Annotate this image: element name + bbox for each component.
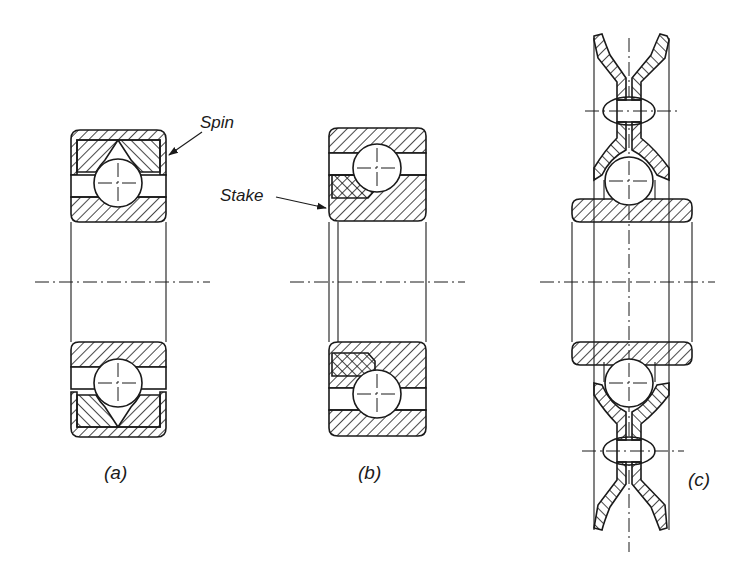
- stake-annotation: Stake: [220, 186, 326, 208]
- bearing-diagram: Spin (a) Stake (b): [0, 0, 745, 570]
- stake-label: Stake: [220, 186, 263, 205]
- caption-a: (a): [104, 462, 127, 483]
- panel-a-bearing: [35, 130, 210, 437]
- caption-b: (b): [358, 462, 381, 483]
- panel-b-bearing: [290, 128, 465, 436]
- caption-c: (c): [688, 469, 710, 490]
- spin-label: Spin: [200, 113, 234, 132]
- spin-annotation: Spin: [169, 113, 234, 155]
